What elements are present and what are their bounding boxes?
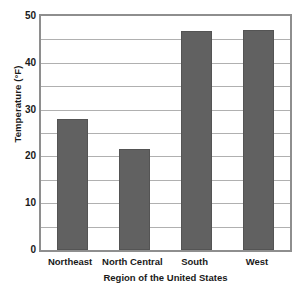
bar-chart-figure: Temperature (°F) 01020304050 NortheastNo…	[0, 0, 303, 290]
x-tick-label: West	[246, 256, 269, 268]
y-tick-label: 0	[2, 245, 36, 255]
y-tick-label: 10	[2, 198, 36, 208]
x-axis-title: Region of the United States	[39, 272, 292, 284]
y-tick-label: 20	[2, 151, 36, 161]
y-tick-label: 40	[2, 58, 36, 68]
x-tick-label: South	[181, 256, 208, 268]
x-tick-label: Northeast	[48, 256, 92, 268]
y-tick-label: 30	[2, 105, 36, 115]
cropped-title-sliver	[14, 0, 214, 5]
y-axis-tick-labels: 01020304050	[0, 0, 36, 290]
bar	[119, 149, 150, 250]
y-tick-label: 50	[2, 11, 36, 21]
bar	[243, 30, 274, 250]
bar	[57, 119, 88, 250]
bar	[181, 31, 212, 250]
plot-area	[39, 14, 292, 252]
x-tick-label: North Central	[102, 256, 163, 268]
x-axis-tick-labels: NortheastNorth CentralSouthWest	[39, 256, 292, 270]
